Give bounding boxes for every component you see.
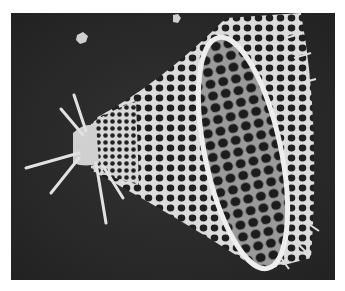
micrograph-photo (11, 13, 335, 280)
radiolarian-illustration (11, 13, 335, 280)
